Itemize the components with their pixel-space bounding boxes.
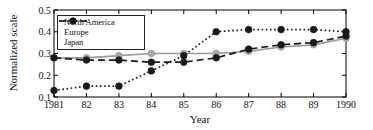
chart-figure: 1981828384858687888919900.10.20.30.40.5 … (0, 0, 373, 130)
legend-label-europe: Europe (64, 27, 89, 37)
legend-label-japan: Japan (64, 37, 83, 47)
svg-text:89: 89 (309, 99, 319, 110)
legend-line-sample-japan (58, 16, 88, 26)
svg-text:85: 85 (179, 99, 189, 110)
plot-area: 1981828384858687888919900.10.20.30.40.5 (0, 0, 373, 130)
svg-text:0.3: 0.3 (39, 48, 52, 59)
x-axis-title: Year (54, 113, 346, 125)
legend-item-europe: Europe (61, 27, 141, 37)
svg-text:0.1: 0.1 (39, 92, 52, 103)
svg-text:0.2: 0.2 (39, 70, 52, 81)
svg-text:82: 82 (81, 99, 91, 110)
y-axis-title: Normalized scale (7, 15, 19, 92)
legend-item-japan: Japan (61, 37, 141, 47)
svg-text:0.4: 0.4 (39, 26, 52, 37)
svg-text:83: 83 (114, 99, 124, 110)
svg-text:87: 87 (244, 99, 254, 110)
legend: North America Europe Japan (57, 15, 145, 50)
svg-text:86: 86 (211, 99, 221, 110)
svg-text:1990: 1990 (336, 99, 356, 110)
svg-text:88: 88 (276, 99, 286, 110)
svg-text:0.5: 0.5 (39, 5, 52, 16)
svg-text:84: 84 (146, 99, 156, 110)
